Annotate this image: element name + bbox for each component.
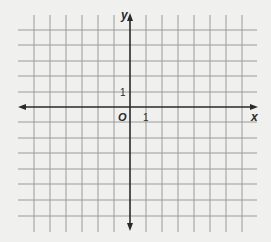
y-unit-label: 1	[120, 88, 126, 98]
x-unit-label: 1	[143, 113, 149, 123]
grid-lines	[18, 15, 257, 232]
coordinate-grid	[0, 0, 271, 242]
x-axis-label: x	[251, 112, 258, 122]
origin-label: O	[118, 112, 127, 122]
x-axis-negative-arrow-icon	[18, 104, 26, 110]
y-axis-negative-arrow-icon	[127, 223, 133, 231]
y-axis-label: y	[121, 10, 128, 20]
